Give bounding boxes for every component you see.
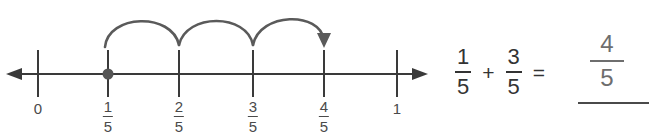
equals-sign: =: [533, 62, 545, 83]
fraction-number-line-worksheet: 0 1 5 2 5 3 5 4 5 1 1: [0, 0, 649, 138]
fraction-denominator: 5: [319, 118, 329, 134]
fraction-equation: 1 5 + 3 5 =: [455, 44, 556, 100]
fraction-4-5: 4 5: [319, 99, 329, 134]
answer-blank-line[interactable]: [578, 102, 649, 104]
tick-label-4-5: 4 5: [319, 99, 329, 134]
fraction-bar: [506, 71, 522, 73]
hop-arc-3: [253, 19, 324, 45]
tick-label-2-5: 2 5: [174, 99, 184, 134]
tick-label-1: 1: [393, 101, 401, 116]
fraction-bar: [248, 116, 258, 117]
fraction-denominator: 5: [174, 118, 184, 134]
start-point-dot: [103, 69, 114, 80]
hop-arc-2: [179, 21, 253, 45]
equation-first-fraction: 1 5: [455, 46, 471, 98]
fraction-denominator: 5: [103, 118, 113, 134]
fraction-numerator: 1: [103, 99, 113, 115]
axis-right-arrow-icon: [412, 68, 428, 80]
hop-arc-1: [105, 21, 179, 47]
fraction-denominator: 5: [506, 74, 522, 98]
answer-fraction[interactable]: 4 5: [590, 32, 624, 90]
fraction-numerator: 1: [455, 46, 471, 70]
number-line-diagram: [0, 0, 440, 138]
hop-arrow-down-icon: [317, 33, 331, 48]
answer-area[interactable]: 4 5: [578, 30, 649, 106]
fraction-numerator: 2: [174, 99, 184, 115]
fraction-denominator: 5: [455, 74, 471, 98]
fraction-bar: [319, 116, 329, 117]
fraction-bar: [590, 60, 624, 62]
tick-label-1-5: 1 5: [103, 99, 113, 134]
fraction-numerator: 3: [506, 46, 522, 70]
fraction-3-5: 3 5: [248, 99, 258, 134]
fraction-numerator: 4: [319, 99, 329, 115]
plus-sign: +: [482, 62, 494, 83]
fraction-numerator: 3: [248, 99, 258, 115]
equation-second-fraction: 3 5: [506, 46, 522, 98]
fraction-1-5: 1 5: [103, 99, 113, 134]
tick-label-3-5: 3 5: [248, 99, 258, 134]
fraction-denominator: 5: [248, 118, 258, 134]
fraction-denominator: 5: [590, 64, 624, 90]
fraction-2-5: 2 5: [174, 99, 184, 134]
fraction-bar: [455, 71, 471, 73]
tick-label-0: 0: [34, 101, 42, 116]
axis-left-arrow-icon: [6, 68, 22, 80]
fraction-numerator: 4: [590, 32, 624, 58]
fraction-bar: [103, 116, 113, 117]
fraction-bar: [174, 116, 184, 117]
